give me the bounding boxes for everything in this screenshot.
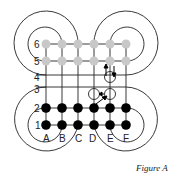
circuit-grid-diagram: 6 5 4 3 2 1 A B C D E F Figure A xyxy=(0,0,175,182)
col-label-f: F xyxy=(123,133,129,144)
row-label-6: 6 xyxy=(34,39,40,50)
col-label-b: B xyxy=(59,133,66,144)
figure-caption: Figure A xyxy=(135,163,168,173)
row-label-4: 4 xyxy=(34,72,40,83)
bottom-node-group xyxy=(41,103,131,130)
col-label-d: D xyxy=(89,133,96,144)
col-label-e: E xyxy=(107,133,114,144)
row-label-5: 5 xyxy=(34,56,40,67)
row-label-2: 2 xyxy=(34,103,40,114)
col-label-a: A xyxy=(43,133,50,144)
row-label-1: 1 xyxy=(35,120,41,131)
top-node-group xyxy=(42,40,131,66)
row-label-3: 3 xyxy=(34,84,40,95)
col-label-c: C xyxy=(75,133,82,144)
